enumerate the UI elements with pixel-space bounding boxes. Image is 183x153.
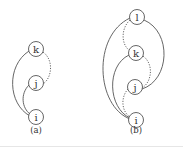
edge-j-i <box>23 85 30 114</box>
node-k: k <box>29 42 44 57</box>
diagram-a: kji(a) <box>13 42 51 136</box>
edge-k-i <box>13 51 30 116</box>
node-label: i <box>34 112 37 123</box>
edge-l-k <box>123 20 130 50</box>
caption-b: (b) <box>130 125 142 135</box>
node-label: k <box>133 48 140 59</box>
node-label: k <box>33 44 40 55</box>
diagram-canvas: kji(a) lkji(b) <box>0 0 183 153</box>
edge-j-i <box>123 89 130 117</box>
edge-k-j <box>142 56 150 88</box>
edge-l-j <box>142 20 164 89</box>
node-i: i <box>29 110 44 125</box>
node-j: j <box>128 80 143 95</box>
node-label: j <box>33 78 37 89</box>
diagram-b: lkji(b) <box>103 10 164 136</box>
node-j: j <box>29 76 44 91</box>
node-k: k <box>129 46 144 61</box>
caption-a: (a) <box>30 125 42 135</box>
bottom-divider <box>0 146 183 147</box>
node-label: l <box>135 12 138 23</box>
node-l: l <box>130 10 145 25</box>
node-label: i <box>134 115 137 126</box>
node-label: j <box>132 82 136 93</box>
edge-k-j <box>43 52 51 84</box>
